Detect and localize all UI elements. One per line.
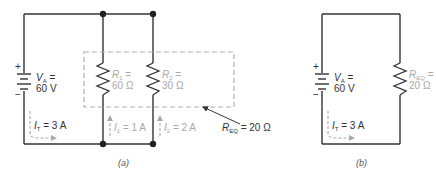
b-resistor-req-icon [394, 63, 406, 95]
b-battery-plus-label: + [313, 61, 319, 72]
i1-label: I1 = 1 A [114, 122, 146, 134]
battery-plus-label: + [15, 61, 21, 72]
circuit-diagram: + − VA = 60 V IT = 3 A R1 = 60 Ω I1 = 1 … [0, 0, 436, 177]
total-current-label: IT = 3 A [34, 120, 67, 132]
r1-value: 60 Ω [112, 80, 134, 91]
resistor-r2-icon [147, 63, 159, 95]
b-battery-minus-label: − [313, 89, 319, 100]
node-dot-bottom-1 [100, 141, 106, 147]
b-source-voltage-value: 60 V [334, 83, 355, 94]
b-total-current-label: IT = 3 A [332, 120, 365, 132]
panel-a-caption: (a) [118, 158, 129, 168]
panel-a-circuit: + − VA = 60 V IT = 3 A R1 = 60 Ω I1 = 1 … [15, 11, 271, 168]
i2-label: I2 = 2 A [164, 122, 196, 134]
node-dot-top-2 [150, 11, 156, 17]
node-dot-top-1 [100, 11, 106, 17]
panel-b-caption: (b) [356, 158, 367, 168]
resistor-r1-icon [97, 63, 109, 95]
node-dot-bottom-2 [150, 141, 156, 147]
panel-b-circuit: + − VA = 60 V IT = 3 A REQ = 20 Ω (b) [313, 14, 434, 168]
b-battery-icon [315, 74, 329, 89]
source-voltage-value: 60 V [36, 83, 57, 94]
r2-value: 30 Ω [162, 80, 184, 91]
b-req-value: 20 Ω [409, 80, 431, 91]
battery-minus-label: − [15, 89, 21, 100]
req-label: REQ = 20 Ω [222, 122, 271, 134]
battery-icon [17, 74, 31, 89]
